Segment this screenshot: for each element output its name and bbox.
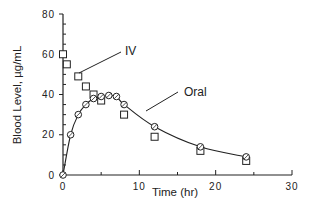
axes: 0204060800102030 [42, 9, 299, 193]
iv-data-point [63, 61, 70, 68]
y-tick-label: 0 [48, 170, 55, 181]
iv-data-point [121, 111, 128, 118]
pharmacokinetic-chart: 0204060800102030 Blood Level, µg/mL Time… [0, 0, 310, 207]
y-tick-label: 40 [42, 89, 55, 100]
oral-annotation: Oral [184, 85, 207, 99]
iv-data-point [60, 51, 67, 58]
iv-annotation: IV [125, 44, 136, 58]
y-axis-label: Blood Level, µg/mL [11, 45, 23, 144]
iv-data-point [75, 73, 82, 80]
x-tick-label: 0 [60, 181, 67, 192]
x-tick-label: 20 [209, 181, 222, 192]
y-tick-label: 20 [42, 129, 55, 140]
x-axis-label: Time (hr) [152, 186, 198, 198]
y-tick-label: 80 [42, 9, 55, 20]
x-tick-label: 30 [285, 181, 298, 192]
iv-annotation-leader [79, 52, 121, 73]
y-tick-label: 60 [42, 49, 55, 60]
iv-data-point [82, 83, 89, 90]
oral-annotation-leader [146, 92, 178, 111]
iv-data-point [151, 133, 158, 140]
x-tick-label: 10 [133, 181, 146, 192]
